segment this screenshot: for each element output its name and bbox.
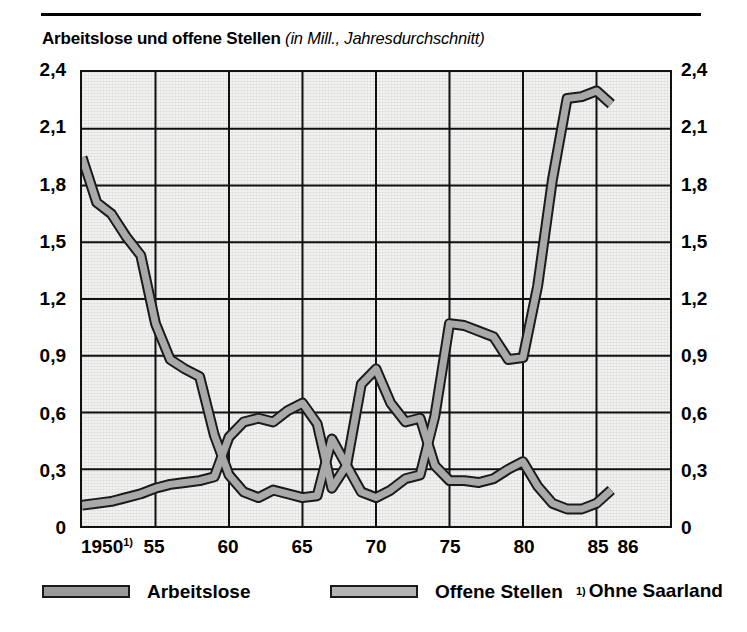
- y-axis-tick-left: 0,9: [40, 346, 66, 365]
- y-axis-tick-right: 1,2: [681, 289, 707, 308]
- y-axis-tick-right: 2,1: [681, 117, 707, 136]
- legend-label-offene-stellen: Offene Stellen: [435, 582, 563, 601]
- x-axis-tick: 85: [587, 536, 608, 558]
- legend-swatch-offene-stellen: [330, 585, 418, 598]
- y-axis-tick-left: 0,3: [40, 461, 66, 480]
- y-axis-tick-left: 1,5: [40, 232, 66, 251]
- chart-legend: Arbeitslose Offene Stellen 1)Ohne Saarla…: [0, 578, 747, 606]
- y-axis-tick-right: 1,8: [681, 175, 707, 194]
- y-axis-tick-right: 2,4: [681, 60, 707, 79]
- x-axis-tick: 86: [617, 536, 638, 558]
- chart-title-subtitle: (in Mill., Jahresdurchschnitt): [285, 29, 484, 47]
- y-axis-tick-left: 1,8: [40, 175, 66, 194]
- chart-title: Arbeitslose und offene Stellen (in Mill.…: [42, 27, 722, 49]
- legend-item-arbeitslose: Arbeitslose: [42, 578, 250, 604]
- legend-swatch-arbeitslose: [42, 585, 130, 598]
- x-axis-tick-label: 1950: [81, 536, 123, 557]
- y-axis-tick-right: 1,5: [681, 232, 707, 251]
- y-axis-tick-left: 0,6: [40, 404, 66, 423]
- y-axis-tick-left: 0: [55, 518, 66, 537]
- legend-footnote-label: Ohne Saarland: [589, 580, 723, 602]
- chart-figure: Arbeitslose und offene Stellen (in Mill.…: [0, 0, 747, 632]
- x-axis-footnote-marker: 1): [123, 536, 133, 548]
- legend-label-arbeitslose: Arbeitslose: [147, 582, 250, 601]
- y-axis-tick-right: 0,3: [681, 461, 707, 480]
- legend-item-offene-stellen: Offene Stellen: [330, 578, 563, 604]
- x-axis-tick: 55: [143, 536, 164, 558]
- y-axis-tick-right: 0,6: [681, 404, 707, 423]
- y-axis-tick-right: 0: [681, 518, 692, 537]
- y-axis-tick-left: 2,1: [40, 117, 66, 136]
- x-axis-tick: 80: [513, 536, 534, 558]
- x-axis-tick: 60: [217, 536, 238, 558]
- x-axis-tick: 75: [439, 536, 460, 558]
- plot-area: [80, 70, 672, 528]
- y-axis-tick-left: 1,2: [40, 289, 66, 308]
- top-rule: [41, 13, 701, 16]
- x-axis-tick: 65: [291, 536, 312, 558]
- x-axis-tick: 19501): [81, 536, 133, 558]
- legend-footnote: 1)Ohne Saarland: [576, 578, 723, 604]
- x-axis-tick: 70: [365, 536, 386, 558]
- y-axis-tick-right: 0,9: [681, 346, 707, 365]
- series-lines: [82, 72, 670, 526]
- y-axis-tick-left: 2,4: [40, 60, 66, 79]
- chart-title-main: Arbeitslose und offene Stellen: [42, 29, 281, 48]
